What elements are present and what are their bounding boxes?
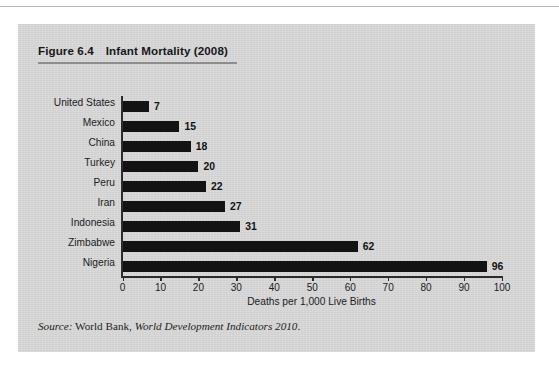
category-label: China — [0, 137, 115, 148]
bar-value-label: 20 — [203, 160, 215, 173]
bar-row: China18 — [18, 137, 535, 157]
category-label: Peru — [0, 177, 115, 188]
source-prefix: Source: — [38, 320, 72, 332]
x-axis-tick-label: 0 — [103, 282, 143, 294]
category-label: Nigeria — [0, 257, 115, 268]
x-axis-tick-label: 60 — [330, 282, 370, 294]
bar-row: Peru22 — [18, 177, 535, 197]
figure-panel: Figure 6.4Infant Mortality (2008) Deaths… — [18, 24, 535, 352]
bar-value-label: 7 — [154, 100, 160, 113]
x-axis-tick — [350, 276, 351, 281]
bar-row: Indonesia31 — [18, 217, 535, 237]
x-axis-tick — [464, 276, 465, 281]
bar — [123, 101, 150, 112]
x-axis-tick — [426, 276, 427, 281]
x-axis-tick — [502, 276, 503, 281]
bar-row: Mexico15 — [18, 117, 535, 137]
category-label: United States — [0, 97, 115, 108]
bar-row: Nigeria96 — [18, 257, 535, 277]
category-label: Indonesia — [0, 217, 115, 228]
category-label: Zimbabwe — [0, 237, 115, 248]
x-axis-tick-label: 70 — [368, 282, 408, 294]
page-top-divider — [0, 6, 559, 7]
x-axis-tick-label: 10 — [140, 282, 180, 294]
x-axis-tick-label: 50 — [292, 282, 332, 294]
x-axis-tick-label: 80 — [406, 282, 446, 294]
bar-value-label: 15 — [184, 120, 196, 133]
x-axis-tick — [198, 276, 199, 281]
bar-value-label: 31 — [245, 220, 257, 233]
bar-chart: Deaths per 1,000 Live Births United Stat… — [18, 24, 535, 352]
category-label: Mexico — [0, 117, 115, 128]
bar — [123, 241, 358, 252]
x-axis-tick — [388, 276, 389, 281]
x-axis-tick — [274, 276, 275, 281]
bar-value-label: 96 — [492, 260, 504, 273]
source-note: Source: World Bank, World Development In… — [38, 320, 300, 332]
bar-row: Turkey20 — [18, 157, 535, 177]
bar-value-label: 18 — [196, 140, 208, 153]
bar-value-label: 22 — [211, 180, 223, 193]
bar-value-label: 62 — [363, 240, 375, 253]
category-label: Turkey — [0, 157, 115, 168]
source-publisher: World Bank, — [75, 320, 132, 332]
x-axis-tick-label: 20 — [178, 282, 218, 294]
bar — [123, 261, 487, 272]
x-axis-tick — [123, 276, 124, 281]
source-publication-title: World Development Indicators 2010 — [135, 320, 298, 332]
figure-page: Figure 6.4Infant Mortality (2008) Deaths… — [0, 0, 559, 376]
x-axis-tick — [236, 276, 237, 281]
bar-value-label: 27 — [230, 200, 242, 213]
bar — [123, 181, 206, 192]
x-axis-tick — [160, 276, 161, 281]
bar — [123, 221, 241, 232]
bar — [123, 121, 180, 132]
bar-row: United States7 — [18, 97, 535, 117]
bar — [123, 201, 225, 212]
x-axis-tick-label: 30 — [216, 282, 256, 294]
bar — [123, 161, 199, 172]
source-period: . — [297, 320, 300, 332]
x-axis-tick-label: 90 — [444, 282, 484, 294]
x-axis-title: Deaths per 1,000 Live Births — [121, 296, 502, 307]
x-axis-tick-label: 40 — [254, 282, 294, 294]
bar-row: Zimbabwe62 — [18, 237, 535, 257]
bar — [123, 141, 191, 152]
x-axis-tick — [312, 276, 313, 281]
x-axis-tick-label: 100 — [482, 282, 522, 294]
bar-row: Iran27 — [18, 197, 535, 217]
category-label: Iran — [0, 197, 115, 208]
